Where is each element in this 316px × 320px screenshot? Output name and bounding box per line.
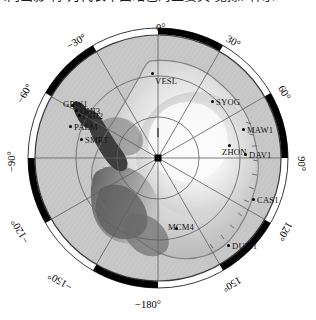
polar-map-svg (0, 14, 316, 320)
clipped-caption: (两出影 特 为代表十面站色的主要关 觉豫, 种示 (0, 0, 316, 13)
caption-text: (两出影 特 为代表十面站色的主要关 觉豫, 种示 (2, 0, 275, 2)
south-pole-marker (155, 155, 162, 162)
screenshot-root: (两出影 特 为代表十面站色的主要关 觉豫, 种示 (0, 0, 316, 320)
antarctica-map-figure: 0°30°60°90°120°150°−180°−150°−120°−90°−6… (0, 14, 316, 320)
